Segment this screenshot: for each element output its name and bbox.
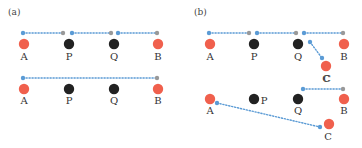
node-a	[205, 94, 215, 104]
node-label: P	[261, 95, 268, 106]
node-label: Q	[294, 51, 302, 62]
panel-a-row-1: APQB	[19, 31, 163, 62]
panel-label: (b)	[194, 7, 207, 17]
dotted-link	[310, 42, 322, 58]
blue-endpoint-dot	[207, 31, 211, 35]
blue-endpoint-dot	[70, 31, 74, 35]
node-label: C	[323, 73, 331, 84]
gray-endpoint-dot	[341, 87, 345, 91]
blue-endpoint-dot	[318, 125, 322, 129]
node-c	[324, 119, 334, 129]
node-label: P	[251, 51, 258, 62]
node-label: B	[154, 95, 161, 106]
gray-endpoint-dot	[61, 31, 65, 35]
node-b	[339, 39, 349, 49]
blue-endpoint-dot	[255, 31, 259, 35]
node-label: A	[19, 95, 28, 106]
node-q	[293, 94, 303, 104]
node-q	[109, 84, 119, 94]
blue-endpoint-dot	[116, 31, 120, 35]
node-label: A	[19, 51, 28, 62]
node-a	[19, 39, 29, 49]
node-b	[339, 94, 349, 104]
panel-a-row-2: APQB	[19, 76, 163, 106]
node-p	[249, 94, 259, 104]
gray-endpoint-dot	[247, 31, 251, 35]
blue-endpoint-dot	[215, 101, 219, 105]
panel-b: (b)APQBCAPQBCC	[194, 7, 349, 142]
blue-endpoint-dot	[308, 40, 312, 44]
blue-endpoint-dot	[302, 31, 306, 35]
diagram-canvas: (a)APQBAPQB(b)APQBCAPQBCC	[0, 0, 362, 148]
node-label: B	[154, 51, 161, 62]
gray-endpoint-dot	[155, 76, 159, 80]
gray-endpoint-dot	[341, 31, 345, 35]
gray-endpoint-dot	[155, 31, 159, 35]
node-label: Q	[110, 95, 118, 106]
blue-endpoint-dot	[320, 56, 324, 60]
node-label: Q	[294, 105, 302, 116]
node-c	[321, 61, 331, 71]
gray-endpoint-dot	[294, 31, 298, 35]
node-a	[19, 84, 29, 94]
node-b	[153, 39, 163, 49]
node-p	[64, 39, 74, 49]
blue-endpoint-dot	[21, 76, 25, 80]
node-label: A	[205, 105, 214, 116]
node-b	[153, 84, 163, 94]
panel-b-row-2: APQBCC	[205, 73, 349, 142]
gray-endpoint-dot	[109, 31, 113, 35]
node-label: P	[66, 51, 73, 62]
node-q	[109, 39, 119, 49]
node-label: A	[205, 51, 214, 62]
panel-label: (a)	[8, 7, 20, 17]
node-p	[64, 84, 74, 94]
node-label: B	[340, 51, 347, 62]
panel-a: (a)APQBAPQB	[8, 7, 163, 106]
node-label: B	[340, 105, 347, 116]
node-p	[249, 39, 259, 49]
blue-endpoint-dot	[21, 31, 25, 35]
node-a	[205, 39, 215, 49]
node-label: Q	[110, 51, 118, 62]
dotted-link	[217, 103, 320, 127]
node-label: P	[66, 95, 73, 106]
node-label: C	[324, 131, 332, 142]
node-q	[293, 39, 303, 49]
blue-endpoint-dot	[301, 87, 305, 91]
